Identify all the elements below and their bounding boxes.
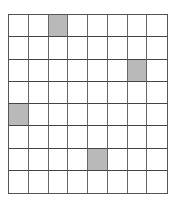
grid-cell: [9, 171, 29, 193]
grid-cell: [9, 37, 29, 59]
grid-cell: [108, 60, 128, 82]
grid-cell: [88, 82, 108, 104]
grid-cell-shaded: [128, 60, 148, 82]
grid-cell: [49, 60, 69, 82]
grid-cell: [88, 104, 108, 126]
grid-cell: [108, 126, 128, 148]
grid-cell: [68, 171, 88, 193]
grid-cell: [9, 149, 29, 171]
grid-cell: [29, 104, 49, 126]
grid-board: [8, 14, 168, 194]
grid-cell: [108, 82, 128, 104]
grid-cell-shaded: [88, 149, 108, 171]
grid-cell: [128, 149, 148, 171]
grid-cell: [147, 171, 167, 193]
grid-cell: [108, 104, 128, 126]
grid-cell: [29, 82, 49, 104]
grid-cell: [147, 149, 167, 171]
grid-cell: [147, 60, 167, 82]
grid-cell: [68, 37, 88, 59]
grid-cell: [29, 171, 49, 193]
grid-cell: [108, 37, 128, 59]
grid-cell: [147, 104, 167, 126]
grid-cell: [147, 15, 167, 37]
grid-cell: [29, 126, 49, 148]
grid-cell: [147, 37, 167, 59]
grid-cell: [88, 15, 108, 37]
grid-cell: [128, 15, 148, 37]
grid-cell: [128, 171, 148, 193]
grid-cell: [88, 171, 108, 193]
grid-cell: [9, 60, 29, 82]
grid-cell: [9, 82, 29, 104]
grid-cell: [68, 82, 88, 104]
grid-cell: [49, 126, 69, 148]
grid-cell: [88, 60, 108, 82]
grid-cell: [128, 126, 148, 148]
grid-cell: [108, 171, 128, 193]
grid-cell: [49, 82, 69, 104]
grid-cell: [128, 82, 148, 104]
grid-cell: [29, 15, 49, 37]
grid-cell: [108, 149, 128, 171]
grid-cell: [108, 15, 128, 37]
grid-cell: [88, 126, 108, 148]
grid-cell: [68, 104, 88, 126]
grid-cell: [49, 149, 69, 171]
grid-cell: [68, 60, 88, 82]
grid-cell: [29, 37, 49, 59]
grid-cell: [88, 37, 108, 59]
grid-cell: [147, 82, 167, 104]
grid-cell: [68, 15, 88, 37]
grid-cell: [68, 149, 88, 171]
grid-cell: [147, 126, 167, 148]
grid-cell: [49, 37, 69, 59]
grid-cell: [68, 126, 88, 148]
grid-cell: [49, 104, 69, 126]
grid-cell: [29, 60, 49, 82]
grid-cell: [128, 37, 148, 59]
grid-cell-shaded: [9, 104, 29, 126]
grid-cell: [128, 104, 148, 126]
grid-cell: [49, 171, 69, 193]
grid-cell: [9, 126, 29, 148]
grid-cell: [29, 149, 49, 171]
grid-cell: [9, 15, 29, 37]
grid-cell-shaded: [49, 15, 69, 37]
